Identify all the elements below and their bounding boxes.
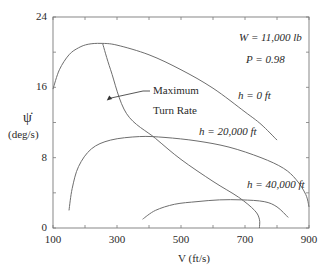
max-turn-rate-label-line1: Maximum (153, 84, 199, 96)
plot-frame (53, 17, 309, 228)
x-tick-label: 500 (171, 233, 191, 245)
h20000-curve-label: h = 20,000 ft (199, 125, 257, 137)
y-tick-label: 8 (42, 151, 48, 163)
weight-annotation: W = 11,000 lb (239, 31, 302, 43)
plot-axes (53, 17, 309, 228)
x-tick-label: 900 (299, 233, 319, 245)
y-tick-label: 24 (36, 10, 47, 22)
x-tick-label: 100 (43, 233, 63, 245)
power-annotation: P = 0.98 (246, 53, 285, 65)
curve-h-20-000-ft (69, 136, 309, 210)
h40000-curve-label: h = 40,000 ft (247, 178, 305, 190)
h0-curve-label: h = 0 ft (238, 89, 271, 101)
y-tick-label: 0 (42, 221, 48, 233)
x-tick-label: 300 (107, 233, 127, 245)
curve-h-40-000-ft (143, 200, 289, 220)
x-tick-label: 700 (235, 233, 255, 245)
max-turn-rate-label-line2: Turn Rate (153, 104, 197, 116)
x-axis-label: V (ft/s) (178, 252, 210, 264)
y-axis-units: (deg/s) (8, 128, 39, 140)
y-tick-label: 16 (36, 80, 47, 92)
plot-curves (53, 43, 309, 228)
annotation-arrow (107, 91, 150, 101)
arrow-leader (109, 91, 150, 99)
y-axis-symbol: ψ̇ (23, 112, 32, 124)
